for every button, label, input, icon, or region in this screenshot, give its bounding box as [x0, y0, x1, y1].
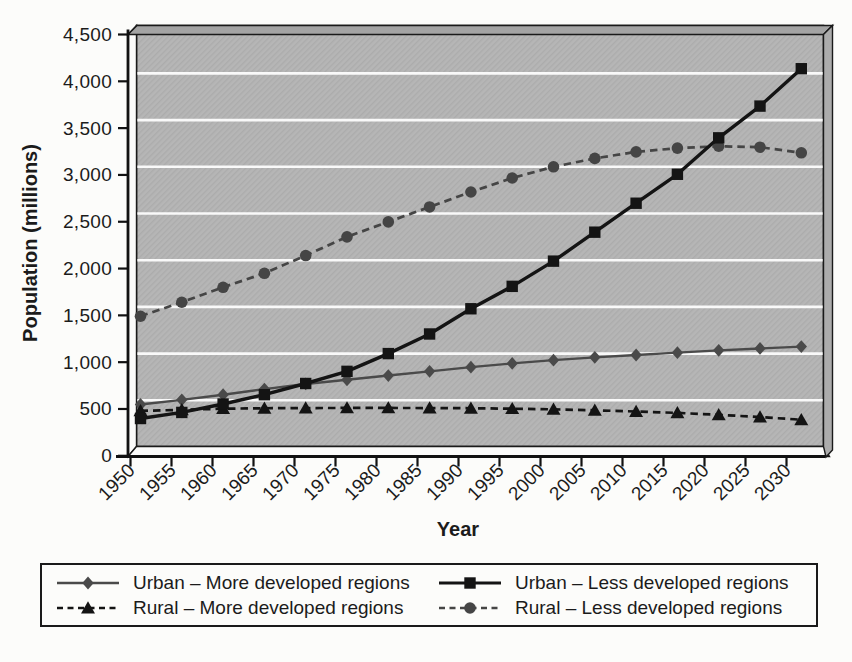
- svg-text:1990: 1990: [422, 459, 467, 504]
- svg-text:3,000: 3,000: [63, 164, 112, 185]
- svg-text:0: 0: [101, 445, 112, 466]
- svg-text:2000: 2000: [504, 459, 549, 504]
- svg-text:2010: 2010: [586, 459, 631, 504]
- svg-text:1975: 1975: [299, 459, 344, 504]
- svg-text:4,500: 4,500: [63, 24, 112, 45]
- svg-text:2,000: 2,000: [63, 258, 112, 279]
- x-axis-title: Year: [437, 518, 479, 541]
- svg-text:1,000: 1,000: [63, 352, 112, 373]
- svg-text:1,500: 1,500: [63, 305, 112, 326]
- svg-text:2030: 2030: [750, 459, 795, 504]
- diamond-marker-icon: [56, 574, 120, 592]
- legend-item-rural-less-developed: Rural – Less developed regions: [438, 597, 810, 619]
- svg-text:1995: 1995: [463, 459, 508, 504]
- y-axis-title: Population (millions): [19, 144, 42, 342]
- circle-marker-icon: [438, 599, 502, 617]
- y-tick-labels: 05001,0001,5002,0002,5003,0003,5004,0004…: [63, 24, 128, 466]
- svg-text:1970: 1970: [258, 459, 303, 504]
- x-tick-labels: 1950195519601965197019751980198519901995…: [94, 457, 795, 505]
- svg-text:2,500: 2,500: [63, 211, 112, 232]
- svg-text:1965: 1965: [217, 459, 262, 504]
- svg-text:1960: 1960: [176, 459, 221, 504]
- legend-item-rural-more-developed: Rural – More developed regions: [56, 597, 438, 619]
- svg-text:3,500: 3,500: [63, 118, 112, 139]
- population-urban-rural-chart-figure: 05001,0001,5002,0002,5003,0003,5004,0004…: [0, 0, 852, 662]
- square-marker-icon: [438, 574, 502, 592]
- svg-text:2005: 2005: [545, 459, 590, 504]
- legend-item-urban-more-developed: Urban – More developed regions: [56, 572, 438, 594]
- legend-label: Rural – Less developed regions: [515, 597, 782, 619]
- legend-item-urban-less-developed: Urban – Less developed regions: [438, 572, 810, 594]
- svg-text:2020: 2020: [668, 459, 713, 504]
- legend-label: Urban – Less developed regions: [515, 572, 789, 594]
- plot-wall: [137, 26, 824, 447]
- svg-text:1955: 1955: [135, 459, 180, 504]
- svg-text:2025: 2025: [709, 459, 754, 504]
- chart-canvas: 05001,0001,5002,0002,5003,0003,5004,0004…: [0, 0, 852, 545]
- triangle-marker-icon: [56, 599, 120, 617]
- svg-text:2015: 2015: [627, 459, 672, 504]
- legend-box: Urban – More developed regions Urban – L…: [40, 563, 818, 627]
- legend-label: Rural – More developed regions: [133, 597, 403, 619]
- svg-text:1985: 1985: [381, 459, 426, 504]
- svg-text:500: 500: [79, 398, 112, 419]
- svg-text:4,000: 4,000: [63, 71, 112, 92]
- svg-text:1980: 1980: [340, 459, 385, 504]
- legend-label: Urban – More developed regions: [133, 572, 410, 594]
